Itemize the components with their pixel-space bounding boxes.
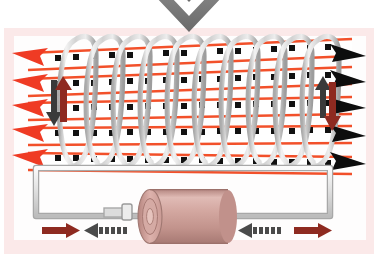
solenoid-diagram <box>0 0 378 258</box>
down-arrow-icon <box>155 0 223 32</box>
current-arrow-right-red <box>294 223 332 238</box>
battery <box>104 190 237 244</box>
diagram-canvas: Solenoid magnetic field diagram A helica… <box>0 0 378 258</box>
current-arrow-right-grey <box>238 223 281 238</box>
current-arrow-left-red <box>42 223 80 238</box>
current-arrow-left-grey <box>84 223 127 238</box>
